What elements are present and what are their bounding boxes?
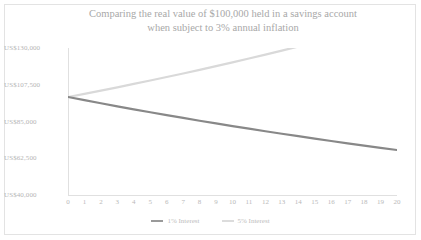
x-axis-tick-label: 9	[214, 198, 218, 206]
x-axis-tick-label: 6	[165, 198, 169, 206]
chart-container: Comparing the real value of $100,000 hel…	[0, 0, 421, 240]
series-line-1-percent-interest	[68, 97, 397, 150]
x-axis-tick-label: 17	[344, 198, 351, 206]
plot-svg	[68, 48, 397, 195]
x-axis-tick-label: 16	[328, 198, 335, 206]
y-axis-tick-label: US$40,000	[4, 191, 62, 199]
y-axis-labels: US$130,000US$107,500US$85,000US$62,500US…	[0, 0, 68, 240]
x-axis-tick-label: 1	[83, 198, 87, 206]
x-axis-tick-label: 18	[361, 198, 368, 206]
x-axis-tick-label: 15	[311, 198, 318, 206]
x-axis-tick-label: 11	[246, 198, 253, 206]
y-axis-tick-label: US$62,500	[4, 154, 62, 162]
x-axis-tick-label: 20	[394, 198, 401, 206]
x-axis-tick-label: 4	[132, 198, 136, 206]
x-axis-line	[68, 195, 397, 196]
chart-legend: 1% Interest5% Interest	[0, 217, 421, 225]
x-axis-tick-label: 3	[116, 198, 120, 206]
chart-title-line-2: when subject to 3% annual inflation	[48, 21, 398, 35]
x-axis-tick-label: 13	[278, 198, 285, 206]
legend-label: 5% Interest	[238, 217, 270, 225]
y-axis-tick-label: US$85,000	[4, 118, 62, 126]
legend-color-swatch	[151, 220, 163, 222]
legend-color-swatch	[222, 220, 234, 222]
x-axis-tick-label: 19	[377, 198, 384, 206]
legend-entry[interactable]: 5% Interest	[222, 217, 270, 225]
chart-title-line-1: Comparing the real value of $100,000 hel…	[48, 7, 398, 21]
x-axis-tick-label: 2	[99, 198, 103, 206]
y-axis-tick-label: US$107,500	[4, 81, 62, 89]
x-axis-tick-label: 8	[198, 198, 202, 206]
x-axis-tick-label: 10	[229, 198, 236, 206]
series-line-5-percent-interest	[68, 48, 397, 97]
chart-title: Comparing the real value of $100,000 hel…	[48, 7, 398, 35]
legend-entry[interactable]: 1% Interest	[151, 217, 199, 225]
x-axis-tick-label: 7	[181, 198, 185, 206]
x-axis-tick-label: 5	[149, 198, 153, 206]
plot-area	[68, 48, 397, 195]
legend-label: 1% Interest	[167, 217, 199, 225]
y-axis-tick-label: US$130,000	[4, 44, 62, 52]
x-axis-tick-label: 12	[262, 198, 269, 206]
x-axis-tick-label: 0	[66, 198, 70, 206]
x-axis-tick-label: 14	[295, 198, 302, 206]
x-axis-labels: 01234567891011121314151617181920	[68, 198, 397, 212]
